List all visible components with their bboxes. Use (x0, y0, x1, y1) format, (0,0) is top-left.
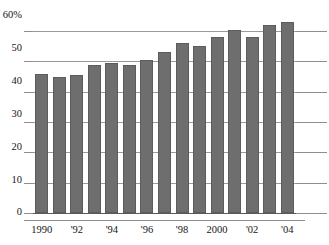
bar-2000 (211, 37, 224, 213)
y-tick-right-0 (296, 213, 327, 214)
y-axis-label-40: 40 (12, 76, 23, 87)
bar-1996 (140, 60, 153, 213)
x-axis-label-1992: '92 (71, 224, 83, 236)
y-tick-right-40 (296, 92, 327, 93)
y-tick-right-10 (296, 183, 327, 184)
chart-title-cropped (28, 0, 324, 2)
y-tick-right-60 (296, 31, 327, 32)
bar-1993 (88, 65, 101, 214)
bar-2003 (263, 25, 276, 213)
x-axis-label-1990: 1990 (31, 224, 52, 236)
bar-1991 (53, 77, 66, 213)
y-tick-left-10 (24, 183, 33, 184)
y-axis-label-20: 20 (12, 142, 23, 153)
x-axis-label-2004: '04 (281, 224, 293, 236)
bar-1994 (105, 63, 118, 213)
y-tick-left-40 (24, 92, 33, 93)
bar-1997 (158, 52, 171, 213)
x-axis-labels: 1990'92'94'96'982000'02'04 (0, 224, 329, 242)
bar-series (33, 16, 296, 213)
x-axis-label-1998: '98 (176, 224, 188, 236)
plot-area (33, 16, 296, 213)
bar-2004 (281, 22, 294, 213)
y-tick-left-50 (24, 61, 33, 62)
bar-2001 (228, 30, 241, 213)
bar-1990 (35, 74, 48, 213)
y-axis-label-50: 50 (12, 43, 23, 54)
y-tick-left-0 (24, 213, 33, 214)
y-axis-label-30: 30 (12, 109, 23, 120)
y-tick-left-60 (24, 31, 33, 32)
y-axis-label-60: 60% (3, 10, 22, 21)
bar-1995 (123, 65, 136, 214)
y-axis-label-0: 0 (17, 207, 22, 218)
bar-chart: 60% 50 40 30 20 10 0 1990'92'94'96'98200… (0, 0, 329, 245)
bar-1998 (176, 43, 189, 213)
x-axis-label-1994: '94 (106, 224, 118, 236)
x-axis-line (24, 220, 305, 221)
bar-2002 (246, 37, 259, 213)
y-tick-left-20 (24, 152, 33, 153)
y-tick-right-30 (296, 122, 327, 123)
bar-1992 (70, 75, 83, 213)
y-tick-left-30 (24, 122, 33, 123)
x-axis-label-2002: '02 (246, 224, 258, 236)
y-tick-right-20 (296, 152, 327, 153)
y-tick-right-50 (296, 61, 327, 62)
y-axis-label-10: 10 (12, 175, 23, 186)
bar-1999 (193, 46, 206, 213)
x-axis-label-2000: 2000 (207, 224, 228, 236)
x-axis-label-1996: '96 (141, 224, 153, 236)
gridline-0 (33, 213, 296, 214)
